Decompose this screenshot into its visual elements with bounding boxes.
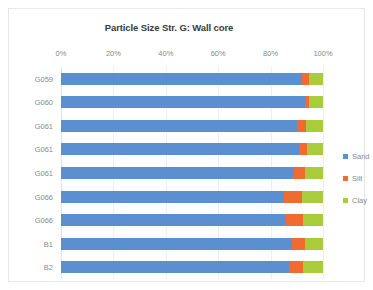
bar-segment-sand [61, 238, 292, 250]
y-tick-label: B1 [44, 239, 53, 248]
bar-row [61, 238, 323, 250]
bar-segment-sand [61, 96, 305, 108]
bar-row [61, 96, 323, 108]
chart-legend: SandSiltClay [343, 145, 373, 211]
x-tick-label: 100% [313, 49, 332, 58]
legend-swatch-icon [343, 198, 348, 203]
bar-segment-silt [299, 143, 307, 155]
plot-area [61, 67, 323, 279]
bar-segment-sand [61, 120, 297, 132]
legend-label: Sand [352, 152, 370, 161]
legend-item-silt: Silt [343, 167, 373, 189]
y-axis-tick-labels: G059G060G061G061G061G066G066B1B2 [9, 67, 57, 279]
y-tick-label: G061 [35, 145, 53, 154]
bar-segment-sand [61, 73, 302, 85]
y-tick-label: G059 [35, 74, 53, 83]
bar-segment-clay [309, 96, 323, 108]
legend-label: Clay [352, 196, 367, 205]
bar-segment-silt [284, 191, 302, 203]
chart-title: Particle Size Str. G: Wall core [9, 22, 329, 33]
legend-swatch-icon [343, 176, 348, 181]
bar-segment-clay [303, 214, 323, 226]
bar-segment-clay [305, 238, 323, 250]
legend-swatch-icon [343, 154, 348, 159]
x-tick-label: 20% [106, 49, 121, 58]
bar-segment-silt [286, 214, 303, 226]
y-tick-label: G061 [35, 169, 53, 178]
legend-item-clay: Clay [343, 189, 373, 211]
y-tick-label: G066 [35, 192, 53, 201]
bar-segment-sand [61, 261, 289, 273]
y-tick-label: G061 [35, 121, 53, 130]
x-tick-label: 40% [158, 49, 173, 58]
bar-segment-silt [289, 261, 303, 273]
bar-segment-clay [302, 191, 323, 203]
bar-row [61, 191, 323, 203]
bar-segment-sand [61, 191, 284, 203]
x-tick-label: 60% [211, 49, 226, 58]
x-axis-tick-labels: 0%20%40%60%80%100% [61, 49, 323, 63]
x-tick-label: 80% [263, 49, 278, 58]
bar-segment-clay [305, 167, 323, 179]
bar-segment-clay [309, 73, 323, 85]
bar-segment-silt [294, 167, 304, 179]
legend-item-sand: Sand [343, 145, 373, 167]
bar-row [61, 261, 323, 273]
x-tick-label: 0% [56, 49, 67, 58]
bar-row [61, 214, 323, 226]
gridline-100% [323, 67, 324, 279]
legend-label: Silt [352, 174, 362, 183]
bar-segment-silt [292, 238, 305, 250]
bar-segment-clay [307, 143, 323, 155]
bar-row [61, 73, 323, 85]
bar-segment-clay [306, 120, 323, 132]
bar-segment-sand [61, 143, 299, 155]
chart-frame: Particle Size Str. G: Wall core 0%20%40%… [8, 8, 365, 282]
bar-row [61, 120, 323, 132]
y-tick-label: G066 [35, 216, 53, 225]
bar-segment-clay [303, 261, 323, 273]
bar-row [61, 143, 323, 155]
bar-row [61, 167, 323, 179]
bar-segment-silt [297, 120, 306, 132]
bar-segment-sand [61, 214, 286, 226]
y-tick-label: B2 [44, 263, 53, 272]
y-tick-label: G060 [35, 98, 53, 107]
bar-segment-sand [61, 167, 294, 179]
